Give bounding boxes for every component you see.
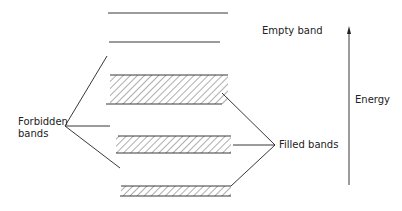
energy-label: Energy <box>355 94 390 106</box>
filled-band-3 <box>120 186 231 196</box>
filled-band-1 <box>106 75 228 104</box>
empty-band-label: Empty band <box>262 25 323 37</box>
forbidden-leader-lines <box>65 56 120 168</box>
forbidden-bands-label-line1: Forbidden <box>18 116 68 128</box>
forbidden-bands-label-line2: bands <box>18 128 48 140</box>
filled-bands-label: Filled bands <box>279 139 338 151</box>
energy-band-diagram: Empty band Energy Forbidden bands Filled… <box>0 0 402 211</box>
energy-arrow <box>347 26 351 185</box>
diagram-graphics <box>0 0 402 211</box>
filled-band-2 <box>116 136 231 153</box>
